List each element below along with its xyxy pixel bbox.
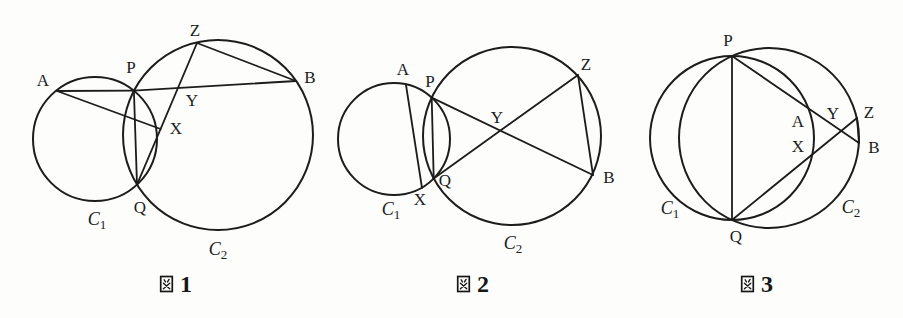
zu-kanji-icon (158, 274, 175, 294)
figure-3-point-label-X: X (792, 137, 804, 156)
figure-3-segment-Q-Z (732, 118, 857, 220)
figure-1-point-label-Z: Z (190, 21, 200, 40)
figure-1-point-label-B: B (304, 68, 315, 87)
figure-2-group: APZBYXQC1C2 (338, 47, 615, 256)
figure-1-segment-Z-Q (137, 43, 197, 185)
figure-3-point-label-Y: Y (827, 104, 839, 123)
zu-kanji-icon (739, 274, 756, 294)
figure-1-circle-C2 (123, 40, 313, 230)
figure-2-caption-number: 2 (477, 272, 489, 296)
figure-2-segment-P-Q (432, 98, 434, 179)
figure-1-segment-P-Q (134, 91, 137, 185)
figure-3-point-label-B: B (868, 138, 879, 157)
figure-2-segment-Z-B (578, 75, 593, 175)
figure-2-point-label-X: X (414, 190, 426, 209)
figure-2-point-label-Y: Y (491, 108, 503, 127)
figure-3-point-label-Q: Q (730, 227, 742, 246)
figure-1-point-label-X: X (170, 119, 182, 138)
figure-3-segment-Z-B (857, 118, 859, 143)
page-background: APZBYXQC1C2APZBYXQC1C2PQZBYAXC1C2 1 2 3 (0, 0, 903, 318)
figure-2-point-label-Z: Z (581, 55, 591, 74)
figure-3-point-label-P: P (723, 31, 732, 50)
figure-1-point-label-P: P (126, 58, 135, 77)
figure-1-segment-P-B (134, 81, 296, 91)
figure-2-segment-Z-Q (434, 75, 578, 178)
figure-3-circle-label-C1: C1 (661, 198, 680, 221)
figure-3-circle-label-C2: C2 (842, 197, 861, 220)
figure-1-point-label-Q: Q (134, 198, 146, 217)
zu-kanji-icon (455, 274, 472, 294)
figure-2-point-label-P: P (425, 72, 434, 91)
figure-2-circle-label-C2: C2 (504, 233, 523, 256)
figure-1-caption-number: 1 (180, 272, 192, 296)
figure-2-segment-A-X (406, 85, 422, 188)
figure-1-group: APZBYXQC1C2 (33, 21, 316, 262)
figure-1-caption: 1 (158, 272, 192, 296)
figure-3-point-label-A: A (792, 112, 805, 131)
figure-1-segment-A-X (57, 91, 161, 129)
figure-2-point-label-B: B (603, 168, 614, 187)
figure-2-caption: 2 (455, 272, 489, 296)
figure-3-caption: 3 (739, 272, 773, 296)
figure-2-circle-label-C1: C1 (382, 199, 401, 222)
figure-3-caption-number: 3 (761, 272, 773, 296)
figure-2-point-label-Q: Q (439, 171, 451, 190)
figure-1-point-label-Y: Y (186, 91, 198, 110)
figure-1-point-label-A: A (37, 71, 50, 90)
figure-1-circle-label-C2: C2 (209, 239, 228, 262)
figure-1-circle-label-C1: C1 (88, 209, 107, 232)
figure-3-group: PQZBYAXC1C2 (650, 31, 880, 246)
figure-3-point-label-Z: Z (864, 103, 874, 122)
figure-1-segment-Z-B (197, 43, 296, 81)
figure-2-point-label-A: A (397, 60, 410, 79)
